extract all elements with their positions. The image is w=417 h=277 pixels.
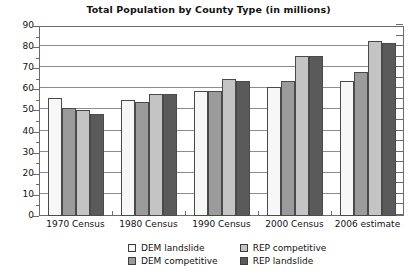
bar [309, 56, 323, 216]
legend-swatch-icon [128, 257, 136, 265]
legend-swatch-icon [240, 257, 248, 265]
y-tick-label: 10 [4, 190, 34, 199]
y-tick-label: 70 [4, 63, 34, 72]
bar [281, 81, 295, 216]
bar [62, 108, 76, 216]
bar [121, 100, 135, 216]
bar [382, 43, 396, 216]
bar [295, 56, 309, 216]
bar [90, 114, 104, 216]
bar [149, 94, 163, 216]
bar [236, 81, 250, 216]
bar [48, 98, 62, 216]
legend-item[interactable]: REP competitive [240, 243, 327, 253]
legend-label: DEM competitive [141, 256, 218, 266]
bar-groups [39, 26, 404, 216]
legend-label: REP competitive [253, 243, 327, 253]
bar [222, 79, 236, 216]
x-tick-label: 1980 Census [112, 219, 185, 229]
legend-item[interactable]: DEM competitive [128, 256, 218, 266]
bar [135, 102, 149, 216]
bar [208, 91, 222, 216]
bar-group [331, 26, 404, 216]
bar [76, 110, 90, 216]
y-tick-label: 80 [4, 42, 34, 51]
bar [354, 72, 368, 216]
legend-label: REP landslide [253, 256, 314, 266]
x-tick-label: 1970 Census [39, 219, 112, 229]
y-tick-label: 40 [4, 127, 34, 136]
bar-group [39, 26, 112, 216]
legend-swatch-icon [128, 244, 136, 252]
y-tick-mark [33, 216, 39, 217]
y-tick-label: 30 [4, 148, 34, 157]
bar [194, 91, 208, 216]
y-tick-label: 50 [4, 105, 34, 114]
y-tick-label: 90 [4, 21, 34, 30]
x-tick-label: 2000 Census [258, 219, 331, 229]
chart-title: Total Population by County Type (in mill… [0, 4, 417, 15]
bar [340, 81, 354, 216]
y-tick-label: 0 [4, 211, 34, 220]
legend-item[interactable]: REP landslide [240, 256, 327, 266]
bar-group [112, 26, 185, 216]
bar-group [185, 26, 258, 216]
x-tick-mark [185, 211, 186, 216]
bar [368, 41, 382, 216]
legend-label: DEM landslide [141, 243, 205, 253]
bar-chart: Total Population by County Type (in mill… [0, 0, 417, 277]
bar [163, 94, 177, 216]
bar-group [258, 26, 331, 216]
chart-legend: DEM landslideREP competitiveDEM competit… [128, 243, 326, 266]
x-tick-mark [258, 211, 259, 216]
bar [267, 87, 281, 216]
y-tick-label: 20 [4, 169, 34, 178]
x-tick-mark [331, 211, 332, 216]
y-tick-label: 60 [4, 84, 34, 93]
legend-swatch-icon [240, 244, 248, 252]
x-tick-label: 1990 Census [185, 219, 258, 229]
x-tick-mark [112, 211, 113, 216]
x-tick-label: 2006 estimate [331, 219, 404, 229]
legend-item[interactable]: DEM landslide [128, 243, 218, 253]
y-tick-mark-right [396, 24, 403, 25]
